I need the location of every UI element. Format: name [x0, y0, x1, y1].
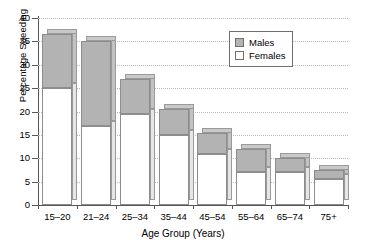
x-axis-tick-label: 15–20 [38, 211, 77, 222]
bar-group[interactable] [120, 18, 150, 205]
chart-legend: Males Females [229, 31, 293, 67]
legend-label-females: Females [249, 51, 285, 61]
bar-group[interactable] [159, 18, 189, 205]
legend-swatch-males-icon [235, 38, 244, 47]
y-axis-tick-label: 25 [8, 83, 30, 93]
bar-segment-males[interactable] [42, 34, 72, 88]
x-axis-tick [77, 205, 78, 209]
bar-segment-males-side [150, 74, 155, 109]
bar-segment-females-side [111, 121, 116, 200]
bar-segment-males-side [72, 29, 77, 83]
x-axis-tick [193, 205, 194, 209]
bar-segment-females-side [266, 167, 271, 200]
bar-segment-females[interactable] [275, 172, 305, 205]
bar-segment-males[interactable] [236, 149, 266, 172]
bar-segment-males[interactable] [159, 109, 189, 135]
y-axis-tick-label: 20 [8, 107, 30, 117]
x-axis-tick [348, 205, 349, 209]
x-axis-tick [309, 205, 310, 209]
x-axis-tick-label: 35–44 [154, 211, 193, 222]
bar-segment-females-side [72, 83, 77, 200]
x-axis-tick-label: 55–64 [232, 211, 271, 222]
x-axis-tick [232, 205, 233, 209]
x-axis-tick-label: 65–74 [271, 211, 310, 222]
x-axis-tick [38, 205, 39, 209]
x-axis-tick-label: 21–24 [77, 211, 116, 222]
y-axis-tick-label: 10 [8, 153, 30, 163]
y-axis-tick-label: 0 [8, 200, 30, 210]
x-axis-title: Age Group (Years) [0, 228, 366, 239]
y-axis-tick-label: 5 [8, 177, 30, 187]
bar-segment-females[interactable] [236, 172, 266, 205]
bar-segment-females-side [227, 149, 232, 200]
bar-segment-females[interactable] [159, 135, 189, 205]
bar-segment-females[interactable] [120, 114, 150, 205]
bar-segment-males[interactable] [275, 158, 305, 172]
bar-segment-females[interactable] [197, 154, 227, 205]
y-axis-tick-label: 35 [8, 36, 30, 46]
bar-segment-females[interactable] [42, 88, 72, 205]
bar-segment-males[interactable] [197, 133, 227, 154]
bar-group[interactable] [314, 18, 344, 205]
bar-segment-females-side [189, 130, 194, 200]
x-axis-tick [116, 205, 117, 209]
x-axis-tick-label: 45–54 [193, 211, 232, 222]
bar-segment-males[interactable] [81, 41, 111, 125]
plot-area [38, 18, 348, 205]
bar-segment-females[interactable] [81, 126, 111, 205]
bar-group[interactable] [197, 18, 227, 205]
y-axis-tick-label: 15 [8, 130, 30, 140]
bar-segment-females-side [150, 109, 155, 200]
y-axis-tick-label: 30 [8, 60, 30, 70]
x-axis-tick-label: 75+ [309, 211, 348, 222]
chart-container: Percentage Speeding 0510152025303540 15–… [0, 0, 366, 250]
bar-segment-females[interactable] [314, 179, 344, 205]
legend-label-males: Males [249, 38, 274, 48]
bar-segment-males-side [111, 36, 116, 120]
x-axis-tick-label: 25–34 [116, 211, 155, 222]
legend-swatch-females-icon [235, 51, 244, 60]
bar-segment-males[interactable] [314, 170, 344, 179]
legend-item-males[interactable]: Males [235, 36, 285, 49]
x-axis-tick [154, 205, 155, 209]
x-axis-tick [271, 205, 272, 209]
bar-segment-females-side [305, 167, 310, 200]
bar-segment-males[interactable] [120, 79, 150, 114]
bar-group[interactable] [42, 18, 72, 205]
legend-item-females[interactable]: Females [235, 49, 285, 62]
y-axis-tick-label: 40 [8, 13, 30, 23]
bar-group[interactable] [81, 18, 111, 205]
bar-segment-females-side [344, 174, 349, 200]
